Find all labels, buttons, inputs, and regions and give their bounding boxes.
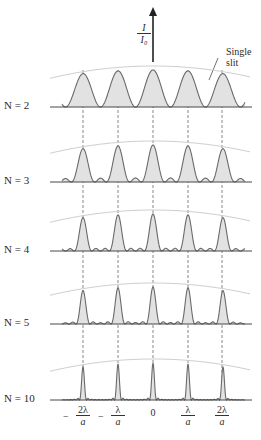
single-slit-envelope	[50, 359, 250, 371]
x-tick-label: 2λa	[208, 404, 236, 427]
single-slit-line2: slit	[226, 57, 252, 68]
row-label-n4: N = 4	[4, 243, 29, 255]
single-slit-line1: Single	[226, 46, 252, 57]
y-label-numerator: I	[137, 22, 151, 33]
arrow-up-icon	[149, 7, 157, 16]
x-tick-label: 0	[139, 407, 167, 418]
intensity-plots	[0, 0, 261, 440]
single-slit-label: Single slit	[226, 46, 252, 68]
row-label-n5: N = 5	[4, 316, 29, 328]
y-label-denominator: I₀	[137, 33, 151, 45]
row-label-n3: N = 3	[4, 174, 29, 186]
multi-slit-interference-figure: N = 2 N = 3 N = 4 N = 5 N = 10 I I₀ Sing…	[0, 0, 261, 440]
x-tick-label: λa	[174, 404, 202, 427]
row-label-n10: N = 10	[4, 392, 35, 404]
x-tick-label: −λa	[104, 404, 132, 427]
row-label-n2: N = 2	[4, 99, 29, 111]
y-axis-label: I I₀	[137, 22, 151, 45]
single-slit-envelope	[50, 210, 250, 222]
single-slit-envelope	[50, 283, 250, 295]
x-tick-label: −2λa	[69, 404, 97, 427]
